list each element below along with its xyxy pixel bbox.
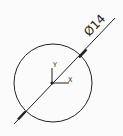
- x-axis-label: X: [68, 76, 73, 84]
- origin-point-icon: [50, 81, 53, 84]
- technical-drawing: Ø14 Y X: [0, 0, 123, 136]
- y-axis-label: Y: [52, 61, 57, 69]
